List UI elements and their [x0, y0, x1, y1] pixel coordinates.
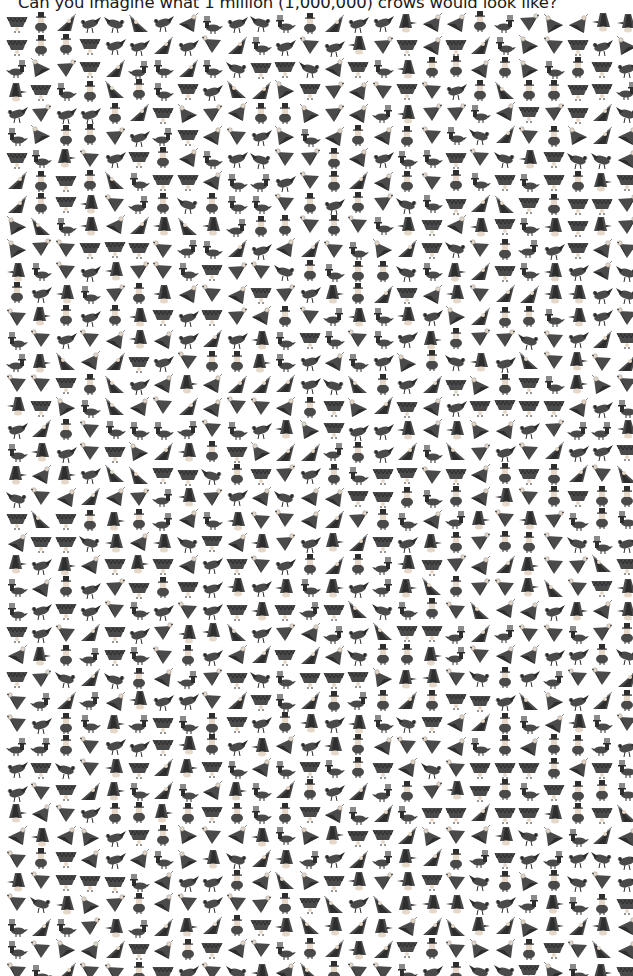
crow-icon [396, 780, 420, 803]
crow-icon [396, 148, 420, 171]
crow-icon [347, 125, 371, 148]
crow-icon [274, 441, 298, 464]
crow-icon [79, 916, 103, 939]
crow-icon [616, 328, 633, 351]
crow-icon [299, 599, 323, 622]
crow-icon [616, 102, 633, 125]
crow-icon [250, 871, 274, 894]
crow-icon [274, 148, 298, 171]
crow-icon [30, 261, 54, 284]
crow-icon [543, 215, 567, 238]
crow-icon [104, 215, 128, 238]
crow-icon [250, 667, 274, 690]
crow-icon [323, 374, 347, 397]
crow-icon [347, 667, 371, 690]
crow-icon [104, 871, 128, 894]
crow-icon [469, 125, 493, 148]
crow-icon [347, 690, 371, 713]
crow-icon [30, 871, 54, 894]
crow-icon [347, 938, 371, 961]
crow-icon [567, 938, 591, 961]
crow-icon [152, 577, 176, 600]
crow-icon [323, 441, 347, 464]
crow-icon [177, 486, 201, 509]
crow-icon [201, 351, 225, 374]
crow-icon [30, 125, 54, 148]
crow-row [6, 80, 633, 103]
crow-icon [250, 419, 274, 442]
crow-icon [6, 419, 30, 442]
crow-icon [55, 283, 79, 306]
crow-icon [30, 306, 54, 329]
crow-icon [445, 690, 469, 713]
crow-icon [128, 238, 152, 261]
crow-icon [347, 848, 371, 871]
crow-icon [128, 825, 152, 848]
crow-icon [201, 35, 225, 58]
crow-icon [421, 464, 445, 487]
crow-icon [55, 780, 79, 803]
crow-icon [445, 148, 469, 171]
crow-icon [494, 57, 518, 80]
crow-icon [30, 464, 54, 487]
crow-icon [250, 215, 274, 238]
crow-icon [543, 80, 567, 103]
crow-icon [250, 396, 274, 419]
crow-icon [591, 893, 615, 916]
crow-icon [152, 825, 176, 848]
crow-icon [518, 509, 542, 532]
crow-icon [591, 35, 615, 58]
crow-icon [421, 351, 445, 374]
crow-icon [299, 871, 323, 894]
crow-icon [421, 599, 445, 622]
crow-icon [518, 712, 542, 735]
crow-icon [128, 35, 152, 58]
crow-row [6, 848, 633, 871]
crow-icon [30, 848, 54, 871]
crow-icon [6, 622, 30, 645]
crow-row [6, 645, 633, 668]
crow-icon [543, 871, 567, 894]
crow-icon [567, 758, 591, 781]
crow-icon [6, 758, 30, 781]
crow-icon [469, 441, 493, 464]
crow-icon [591, 238, 615, 261]
crow-icon [543, 712, 567, 735]
crow-icon [6, 102, 30, 125]
crow-icon [323, 893, 347, 916]
crow-icon [250, 80, 274, 103]
crow-icon [177, 396, 201, 419]
crow-icon [445, 577, 469, 600]
crow-icon [201, 125, 225, 148]
crow-icon [543, 735, 567, 758]
crow-icon [104, 532, 128, 555]
crow-icon [591, 690, 615, 713]
crow-icon [152, 486, 176, 509]
crow-icon [152, 238, 176, 261]
crow-icon [469, 712, 493, 735]
crow-icon [494, 148, 518, 171]
crow-icon [152, 667, 176, 690]
crow-icon [177, 12, 201, 35]
crow-icon [104, 328, 128, 351]
crow-icon [469, 938, 493, 961]
crow-icon [494, 486, 518, 509]
crow-icon [445, 396, 469, 419]
crow-icon [201, 441, 225, 464]
crow-icon [616, 825, 633, 848]
crow-icon [128, 803, 152, 826]
crow-icon [543, 419, 567, 442]
crow-icon [79, 938, 103, 961]
crow-icon [396, 351, 420, 374]
crow-icon [30, 215, 54, 238]
crow-icon [299, 148, 323, 171]
crow-icon [323, 803, 347, 826]
crow-icon [177, 419, 201, 442]
crow-icon [79, 667, 103, 690]
crow-icon [469, 374, 493, 397]
crow-row [6, 532, 633, 555]
crow-icon [79, 871, 103, 894]
crow-icon [6, 486, 30, 509]
crow-icon [396, 57, 420, 80]
crow-icon [274, 938, 298, 961]
